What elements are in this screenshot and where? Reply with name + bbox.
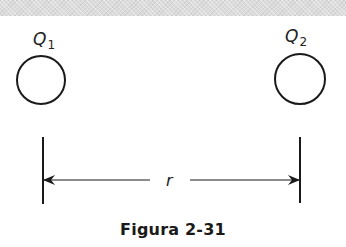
charge-q2: Q2	[275, 26, 325, 104]
distance-label-r: r	[166, 171, 174, 190]
charge-q1-circle	[17, 56, 65, 104]
charge-q2-label: Q2	[285, 26, 307, 49]
charge-q1: Q1	[17, 29, 65, 104]
distance-indicator: r	[43, 137, 300, 204]
coulomb-distance-diagram: Q1 Q2 r	[0, 0, 346, 247]
figure-caption: Figura 2-31	[0, 220, 346, 239]
charge-q1-label: Q1	[33, 29, 55, 52]
charge-q2-circle	[275, 54, 325, 104]
